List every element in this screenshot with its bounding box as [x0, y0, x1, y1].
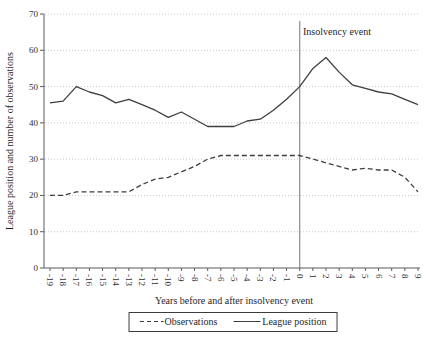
x-tick-label: -5 — [229, 274, 239, 282]
x-tick-label: -2 — [268, 274, 278, 282]
y-tick-label: 70 — [29, 9, 39, 19]
legend-label-observations: Observations — [165, 316, 218, 327]
insolvency-event-label: Insolvency event — [303, 26, 371, 37]
x-tick-label: -18 — [58, 274, 68, 286]
dashed-line-sample — [140, 321, 164, 322]
x-tick-label: -7 — [203, 274, 213, 282]
x-tick-label: 9 — [413, 274, 423, 279]
chart-figure: 010203040506070-19-18-17-16-15-14-13-12-… — [0, 0, 430, 348]
x-tick-label: -6 — [216, 274, 226, 282]
x-tick-label: -10 — [163, 274, 173, 286]
x-tick-label: 7 — [387, 274, 397, 279]
x-tick-label: -11 — [150, 274, 160, 286]
x-tick-label: -8 — [190, 274, 200, 282]
x-tick-label: 2 — [321, 274, 331, 279]
x-tick-label: -17 — [71, 274, 81, 286]
x-tick-label: -19 — [45, 274, 55, 286]
x-tick-label: -14 — [111, 274, 121, 286]
solid-line-sample — [233, 321, 260, 322]
x-tick-label: -9 — [176, 274, 186, 282]
x-tick-label: 3 — [334, 274, 344, 279]
x-tick-label: -1 — [282, 274, 292, 282]
x-tick-label: 0 — [295, 274, 305, 279]
series-line-observations — [50, 156, 418, 196]
x-tick-label: -15 — [98, 274, 108, 286]
y-tick-label: 0 — [34, 263, 39, 273]
y-tick-label: 10 — [29, 227, 39, 237]
x-tick-label: 8 — [400, 274, 410, 279]
y-tick-label: 30 — [29, 154, 39, 164]
x-tick-label: -12 — [137, 274, 147, 286]
x-axis-title: Years before and after insolvency event — [155, 295, 313, 306]
x-tick-label: 5 — [360, 274, 370, 279]
y-tick-label: 60 — [29, 45, 39, 55]
x-tick-label: 6 — [374, 274, 384, 279]
x-tick-label: -16 — [84, 274, 94, 286]
x-tick-label: -4 — [242, 274, 252, 282]
y-axis-title: League position and number of observatio… — [4, 52, 15, 230]
x-tick-label: -13 — [124, 274, 134, 286]
series-line-league-position — [50, 58, 418, 127]
y-tick-label: 50 — [29, 82, 39, 92]
legend: Observations League position — [129, 312, 338, 332]
y-tick-label: 40 — [29, 118, 39, 128]
x-tick-label: 1 — [308, 274, 318, 279]
x-tick-label: 4 — [347, 274, 357, 279]
x-tick-label: -3 — [255, 274, 265, 282]
legend-label-league-position: League position — [262, 316, 326, 327]
y-tick-label: 20 — [29, 190, 39, 200]
legend-item-league-position: League position — [233, 316, 326, 327]
legend-item-observations: Observations — [140, 316, 218, 327]
